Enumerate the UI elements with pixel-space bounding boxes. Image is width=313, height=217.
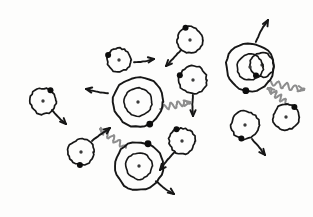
nucleus-dot bbox=[191, 78, 194, 81]
nucleus-dot bbox=[117, 58, 120, 61]
electron-dot bbox=[77, 162, 83, 168]
electron-dot bbox=[47, 87, 53, 93]
electron-dot bbox=[174, 126, 180, 132]
electron-dot bbox=[242, 87, 249, 94]
nucleus-dot bbox=[136, 100, 139, 103]
nucleus-dot bbox=[284, 115, 287, 118]
electron-dot bbox=[146, 121, 153, 128]
electron-dot bbox=[238, 136, 244, 142]
nucleus-dot bbox=[180, 139, 183, 142]
electron-dot bbox=[177, 72, 183, 78]
electron-dot bbox=[183, 25, 189, 31]
electron-dot bbox=[291, 104, 297, 110]
figure-background bbox=[0, 0, 313, 217]
nucleus-dot bbox=[243, 123, 246, 126]
nucleus-dot bbox=[188, 38, 191, 41]
nucleus-dot bbox=[248, 65, 251, 68]
atom-photon-diagram bbox=[0, 0, 313, 217]
figure-canvas: Hand-drawn diagram of atoms emitting and… bbox=[0, 0, 313, 217]
electron-dot bbox=[105, 52, 111, 58]
nucleus-dot bbox=[41, 99, 44, 102]
nucleus-dot bbox=[79, 150, 82, 153]
nucleus-dot bbox=[137, 164, 140, 167]
electron-dot bbox=[145, 140, 152, 147]
